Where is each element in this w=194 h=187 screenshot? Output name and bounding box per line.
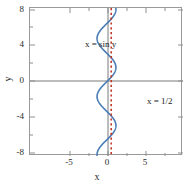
y-tick-label-8: 8 <box>2 5 24 14</box>
x-tick-label-neg5: -5 <box>58 158 80 167</box>
y-axis-label-text: y <box>2 77 12 82</box>
figure-sine-plot: 8 4 0 -4 -8 -5 0 5 x y <box>0 0 194 187</box>
y-tick-label-neg8: -8 <box>2 148 24 157</box>
y-tick-label-neg4: -4 <box>2 112 24 121</box>
y-axis-label: y <box>0 74 18 84</box>
y-axis-ticks <box>30 10 35 153</box>
x-tick-label-0: 0 <box>96 158 118 167</box>
x-axis-ticks <box>70 151 165 156</box>
x-tick-label-5: 5 <box>134 158 156 167</box>
annotation-sine-equation: x = sin y <box>85 40 116 49</box>
x-axis-label: x <box>0 172 194 182</box>
x-axis-ticks-top <box>70 8 165 13</box>
curve-x-equals-sin-y <box>97 8 116 156</box>
y-tick-label-4: 4 <box>2 40 24 49</box>
plot-area: x = sin y x = 1/2 <box>29 7 182 155</box>
plot-canvas <box>30 8 183 156</box>
annotation-half-equation: x = 1/2 <box>147 97 173 106</box>
y-axis-ticks-right <box>178 10 183 153</box>
